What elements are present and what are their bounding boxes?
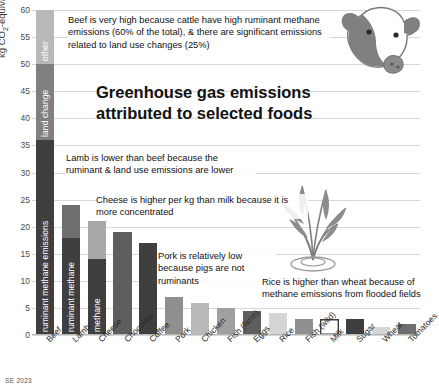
bar-segment	[88, 221, 106, 259]
y-axis-label-subscript: 2	[2, 27, 9, 31]
bar-cheese[interactable]: methane	[88, 221, 106, 335]
annotation-beef: Beef is very high because cattle have hi…	[68, 14, 330, 51]
y-axis-tick-label: 20	[4, 222, 30, 232]
annotation-pork: Pork is relatively low because pigs are …	[158, 250, 276, 287]
credit-text: SE 2023	[5, 377, 32, 384]
bar-segment	[62, 205, 80, 238]
bar-segment-label: land change	[40, 90, 50, 137]
bar-segment-label: ruminant methane emissions	[40, 221, 50, 332]
bar-lamb[interactable]: ruminant methane	[62, 205, 80, 335]
bar-segment: ruminant methane	[62, 238, 80, 336]
y-axis-tick-label: 25	[4, 195, 30, 205]
bar-segment-label: methane	[92, 298, 102, 332]
bar-segment: other	[36, 10, 54, 64]
bar-segment: land change	[36, 64, 54, 140]
annotation-lamb: Lamb is lower than beef because the rumi…	[66, 152, 256, 177]
annotation-cheese: Cheese is higher per kg than milk becaus…	[96, 194, 308, 219]
y-axis-tick-label: 0	[4, 330, 30, 340]
rice-plant-icon	[262, 172, 364, 280]
y-axis-tick-label: 10	[4, 276, 30, 286]
bar-segment-label: other	[40, 41, 50, 61]
bar-segment-label: ruminant methane	[66, 262, 76, 332]
bar-segment: ruminant methane emissions	[36, 140, 54, 335]
y-axis-tick-label: 45	[4, 86, 30, 96]
y-axis-label: kg CO2-equivalent emitted per kg food	[0, 0, 9, 58]
page-title: Greenhouse gas emissions attributed to s…	[96, 82, 406, 124]
y-axis-tick-label: 30	[4, 168, 30, 178]
y-axis-ticks: 051015202530354045505560	[0, 10, 32, 335]
bar-beef[interactable]: otherland changeruminant methane emissio…	[36, 10, 54, 335]
y-axis-tick-label: 40	[4, 113, 30, 123]
x-axis-labels: BeefLambCheeseChocolateCoffeePorkChicken…	[32, 337, 420, 387]
y-axis-tick-label: 5	[4, 303, 30, 313]
y-axis-tick-label: 35	[4, 140, 30, 150]
y-axis-label-prefix: kg CO	[0, 31, 7, 58]
annotation-rice: Rice is higher than wheat because of met…	[262, 276, 422, 301]
y-axis-tick-label: 50	[4, 59, 30, 69]
y-axis-label-suffix: -equivalent emitted per kg food	[0, 0, 7, 27]
y-axis-tick-label: 15	[4, 249, 30, 259]
cow-head-icon	[336, 2, 422, 76]
bar-segment: methane	[88, 259, 106, 335]
